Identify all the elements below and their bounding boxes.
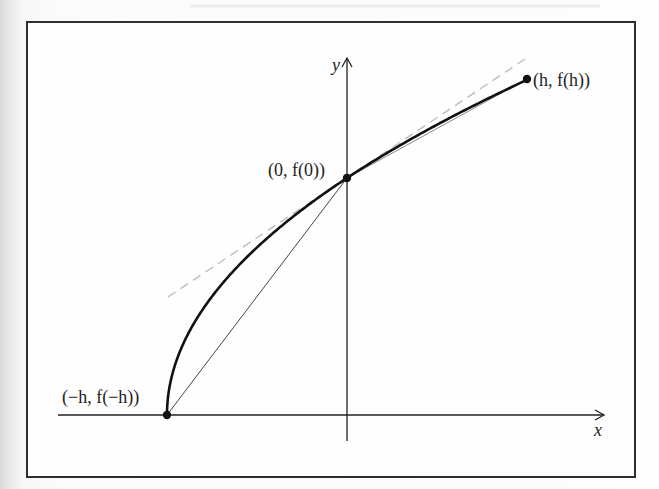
figure-canvas: (−h, f(−h)) (0, f(0)) (h, f(h)) y x: [0, 0, 659, 489]
x-axis-label: x: [593, 420, 602, 440]
point-zero-label: (0, f(0)): [268, 160, 325, 181]
point-minus-h-label: (−h, f(−h)): [62, 387, 139, 408]
secant-left: [167, 178, 347, 415]
point-zero-marker: [343, 174, 351, 182]
point-minus-h-marker: [163, 411, 171, 419]
point-plus-h-label: (h, f(h)): [533, 70, 590, 91]
y-axis-label: y: [330, 55, 340, 75]
point-plus-h-marker: [523, 75, 531, 83]
